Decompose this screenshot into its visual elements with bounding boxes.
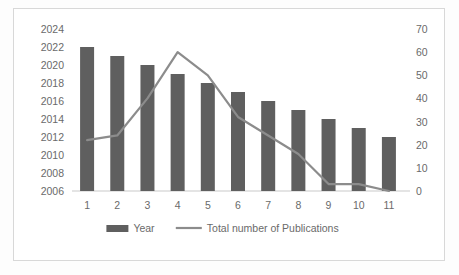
right-axis-tick-label: 30 bbox=[416, 116, 428, 128]
bar-data-point bbox=[352, 128, 366, 191]
left-axis-tick-label: 2018 bbox=[41, 77, 65, 89]
left-axis-tick-group: 2024202220202018201620142012201020082006 bbox=[41, 23, 65, 197]
left-axis-tick-label: 2012 bbox=[41, 131, 65, 143]
chart-figure: 2024202220202018201620142012201020082006… bbox=[0, 0, 459, 275]
left-axis-tick-label: 2008 bbox=[41, 167, 65, 179]
bar-data-point bbox=[171, 74, 185, 191]
x-axis-tick-label: 10 bbox=[353, 199, 365, 211]
x-axis-tick-group: 1234567891011 bbox=[84, 199, 394, 211]
bar-data-point bbox=[201, 83, 215, 191]
bar-data-point bbox=[80, 47, 94, 191]
right-axis-tick-label: 60 bbox=[416, 46, 428, 58]
left-axis-tick-label: 2016 bbox=[41, 95, 65, 107]
x-axis-tick-label: 4 bbox=[175, 199, 181, 211]
x-axis-tick-label: 6 bbox=[235, 199, 241, 211]
x-axis-tick-label: 3 bbox=[145, 199, 151, 211]
x-axis-tick-label: 11 bbox=[383, 199, 394, 211]
left-axis-tick-label: 2006 bbox=[41, 185, 65, 197]
x-axis-tick-label: 5 bbox=[205, 199, 211, 211]
left-axis-tick-label: 2024 bbox=[41, 23, 65, 35]
x-axis-tick-label: 1 bbox=[84, 199, 90, 211]
right-axis-tick-label: 0 bbox=[416, 185, 422, 197]
left-axis-tick-label: 2014 bbox=[41, 113, 65, 125]
chart-plot-frame: 2024202220202018201620142012201020082006… bbox=[13, 8, 445, 261]
x-axis-tick-label: 7 bbox=[265, 199, 271, 211]
x-axis-tick-label: 8 bbox=[295, 199, 301, 211]
right-axis-tick-label: 50 bbox=[416, 69, 428, 81]
legend-marker-bar bbox=[106, 225, 128, 232]
bar-data-point bbox=[382, 137, 396, 191]
left-axis-tick-label: 2010 bbox=[41, 149, 65, 161]
legend-label: Year bbox=[133, 222, 155, 234]
right-axis-tick-label: 70 bbox=[416, 23, 428, 35]
chart-canvas: 2024202220202018201620142012201020082006… bbox=[14, 9, 444, 260]
x-axis-tick-label: 2 bbox=[114, 199, 120, 211]
right-axis-tick-label: 40 bbox=[416, 92, 428, 104]
bar-data-point bbox=[231, 92, 245, 191]
left-axis-tick-label: 2022 bbox=[41, 41, 65, 53]
bar-series-group bbox=[80, 47, 396, 191]
chart-legend: YearTotal number of Publications bbox=[106, 222, 338, 234]
bar-data-point bbox=[261, 101, 275, 191]
left-axis-tick-label: 2020 bbox=[41, 59, 65, 71]
right-axis-tick-label: 20 bbox=[416, 139, 428, 151]
bar-data-point bbox=[110, 56, 124, 191]
right-axis-tick-group: 706050403020100 bbox=[416, 23, 428, 197]
x-axis-tick-label: 9 bbox=[326, 199, 332, 211]
right-axis-tick-label: 10 bbox=[416, 162, 428, 174]
legend-label: Total number of Publications bbox=[207, 222, 339, 234]
bar-data-point bbox=[140, 65, 154, 191]
